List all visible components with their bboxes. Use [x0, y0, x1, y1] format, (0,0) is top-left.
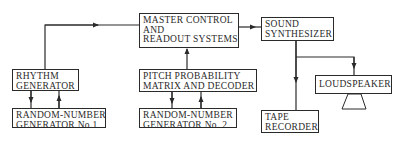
rng2-line-2: GENERATOR No. 2	[143, 121, 233, 131]
pitch-line-2: MATRIX AND DECODER	[143, 82, 253, 92]
random-number-generator-2-box: RANDOM-NUMBER GENERATOR No. 2	[139, 108, 237, 128]
speaker-cone-icon	[342, 94, 366, 109]
rhythm-generator-box: RHYTHM GENERATOR	[12, 69, 79, 91]
synth-line-2: SYNTHESIZER	[265, 30, 330, 40]
block-diagram: MASTER CONTROL AND READOUT SYSTEMS SOUND…	[0, 0, 399, 147]
master-control-box: MASTER CONTROL AND READOUT SYSTEMS	[139, 13, 239, 48]
rng1-line-2: GENERATOR No.1	[16, 121, 102, 131]
sound-synthesizer-box: SOUND SYNTHESIZER	[261, 17, 334, 41]
rhythm-line-2: GENERATOR	[16, 82, 75, 92]
pitch-probability-box: PITCH PROBABILITY MATRIX AND DECODER	[139, 69, 257, 92]
tape-recorder-box: TAPE RECORDER	[261, 110, 319, 133]
master-line-3: READOUT SYSTEMS	[143, 35, 235, 45]
speaker-label: LOUDSPEAKER	[319, 80, 388, 90]
loudspeaker-box: LOUDSPEAKER	[315, 75, 392, 94]
tape-line-2: RECORDER	[265, 123, 315, 133]
random-number-generator-1-box: RANDOM-NUMBER GENERATOR No.1	[12, 108, 106, 128]
edge-synth-to-speaker	[296, 57, 354, 75]
edge-rhythm-to-master	[45, 25, 139, 69]
